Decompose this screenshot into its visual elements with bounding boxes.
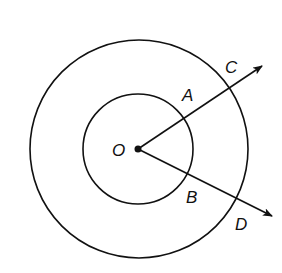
label-a: A	[181, 86, 193, 105]
label-o: O	[112, 141, 125, 160]
ray-od	[138, 149, 272, 216]
center-point-o	[135, 146, 142, 153]
label-c: C	[225, 58, 238, 77]
diagram-canvas: O A B C D	[0, 0, 282, 273]
ray-oc	[138, 66, 262, 149]
label-b: B	[186, 188, 197, 207]
label-d: D	[235, 215, 247, 234]
concentric-circles-diagram: O A B C D	[0, 0, 282, 273]
